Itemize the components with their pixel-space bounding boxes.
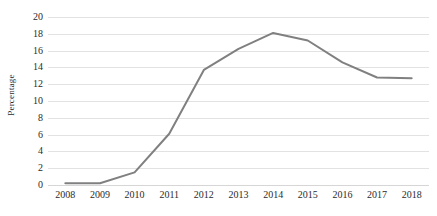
y-axis-title: Percentage bbox=[0, 0, 22, 190]
x-tick-label-2012: 2012 bbox=[194, 190, 214, 200]
y-tick-label-0: 0 bbox=[38, 180, 43, 190]
y-tick-label-2: 2 bbox=[38, 163, 43, 173]
y-tick-label-16: 16 bbox=[33, 46, 43, 56]
y-tick-label-12: 12 bbox=[33, 79, 43, 89]
series-line-percentage bbox=[65, 33, 411, 183]
x-axis-tick-labels: 2008200920102011201220132014201520162017… bbox=[48, 190, 429, 210]
x-tick-label-2018: 2018 bbox=[402, 190, 422, 200]
x-tick-label-2017: 2017 bbox=[367, 190, 387, 200]
x-tick-label-2010: 2010 bbox=[125, 190, 145, 200]
line-chart: Percentage 02468101214161820 20082009201… bbox=[0, 0, 437, 216]
x-tick-label-2016: 2016 bbox=[332, 190, 352, 200]
y-axis-tick-labels: 02468101214161820 bbox=[22, 0, 46, 216]
y-tick-label-14: 14 bbox=[33, 62, 43, 72]
x-tick-label-2014: 2014 bbox=[263, 190, 283, 200]
y-tick-label-10: 10 bbox=[33, 96, 43, 106]
x-tick-label-2013: 2013 bbox=[229, 190, 249, 200]
y-axis-title-text: Percentage bbox=[6, 74, 16, 115]
y-tick-label-4: 4 bbox=[38, 146, 43, 156]
plot-area bbox=[48, 0, 429, 216]
x-tick-label-2011: 2011 bbox=[159, 190, 179, 200]
y-tick-label-6: 6 bbox=[38, 130, 43, 140]
y-tick-label-18: 18 bbox=[33, 29, 43, 39]
y-tick-label-20: 20 bbox=[33, 12, 43, 22]
series-layer bbox=[48, 0, 429, 216]
y-tick-label-8: 8 bbox=[38, 113, 43, 123]
x-tick-label-2008: 2008 bbox=[55, 190, 75, 200]
x-tick-label-2009: 2009 bbox=[90, 190, 110, 200]
x-tick-label-2015: 2015 bbox=[298, 190, 318, 200]
